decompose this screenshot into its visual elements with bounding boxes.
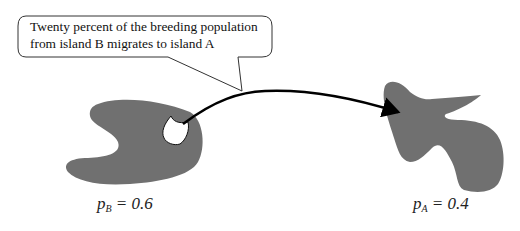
- callout-line-2: from island B migrates to island A: [30, 35, 270, 52]
- callout-line-1: Twenty percent of the breeding populatio…: [30, 18, 270, 35]
- frequency-value-a: = 0.4: [428, 194, 469, 213]
- island-b-frequency-label: pB = 0.6: [97, 194, 153, 214]
- frequency-var-b: p: [97, 194, 106, 213]
- frequency-value-b: = 0.6: [112, 194, 153, 213]
- migration-arrow: [183, 91, 398, 124]
- frequency-var-a: p: [413, 194, 422, 213]
- island-a-shape: [384, 82, 504, 192]
- callout-text: Twenty percent of the breeding populatio…: [30, 18, 270, 52]
- island-a-frequency-label: pA = 0.4: [413, 194, 469, 214]
